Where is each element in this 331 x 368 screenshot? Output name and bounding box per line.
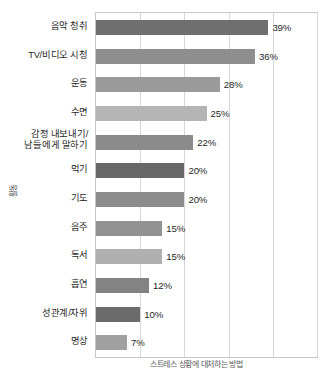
bar-value-label: 10%	[144, 307, 163, 322]
bar	[96, 163, 184, 178]
bar-row: 7%	[96, 335, 317, 350]
category-label: 흡연	[0, 279, 88, 290]
category-label: 운동	[0, 78, 88, 89]
category-label: TV/비디오 시청	[0, 50, 88, 61]
bar-value-label: 20%	[188, 163, 207, 178]
bar	[96, 135, 193, 150]
bar-row: 25%	[96, 106, 317, 121]
bar	[96, 106, 207, 121]
bar-value-label: 39%	[272, 20, 291, 35]
bar-row: 39%	[96, 20, 317, 35]
category-label: 명상	[0, 336, 88, 347]
bar-row: 36%	[96, 49, 317, 64]
bar-row: 20%	[96, 163, 317, 178]
bar-value-label: 7%	[131, 335, 145, 350]
category-label: 음주	[0, 222, 88, 233]
chart-caption: 스트레스 상황에 대처하는 방법	[150, 360, 243, 368]
bar	[96, 335, 127, 350]
bar-value-label: 12%	[153, 278, 172, 293]
category-label: 기도	[0, 193, 88, 204]
bar	[96, 192, 184, 207]
bar-row: 10%	[96, 307, 317, 322]
bar-row: 28%	[96, 77, 317, 92]
bar	[96, 20, 268, 35]
bars-layer: 39%36%28%25%22%20%20%15%15%12%10%7%	[96, 13, 317, 357]
bar-row: 22%	[96, 135, 317, 150]
bar	[96, 221, 162, 236]
category-label: 성관계/자위	[0, 308, 88, 319]
category-label: 독서	[0, 250, 88, 261]
bar	[96, 49, 255, 64]
bar	[96, 77, 220, 92]
plot-area: 39%36%28%25%22%20%20%15%15%12%10%7%	[95, 12, 318, 358]
bar-value-label: 15%	[166, 221, 185, 236]
category-label: 먹기	[0, 164, 88, 175]
bar-value-label: 25%	[211, 106, 230, 121]
bar-row: 15%	[96, 249, 317, 264]
bar	[96, 278, 149, 293]
bar-value-label: 28%	[224, 77, 243, 92]
bar-row: 20%	[96, 192, 317, 207]
bar-value-label: 36%	[259, 49, 278, 64]
gridline-50	[317, 13, 318, 357]
bar-row: 12%	[96, 278, 317, 293]
bar-chart-figure: 활동 음악 청취TV/비디오 시청운동수면감정 내보내기/ 남들에게 말하기먹기…	[0, 0, 331, 368]
bar	[96, 249, 162, 264]
category-label: 음악 청취	[0, 21, 88, 32]
bar-value-label: 20%	[188, 192, 207, 207]
bar-row: 15%	[96, 221, 317, 236]
category-label-column: 음악 청취TV/비디오 시청운동수면감정 내보내기/ 남들에게 말하기먹기기도음…	[0, 12, 92, 358]
category-label: 수면	[0, 107, 88, 118]
bar-value-label: 15%	[166, 249, 185, 264]
bar	[96, 307, 140, 322]
category-label: 감정 내보내기/ 남들에게 말하기	[0, 129, 88, 151]
bar-value-label: 22%	[197, 135, 216, 150]
